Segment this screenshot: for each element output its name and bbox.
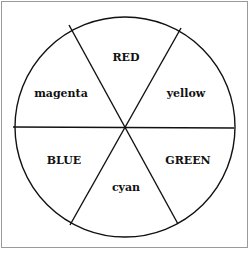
segment-label-cyan: cyan [112, 181, 140, 194]
divider-horizontal [13, 127, 234, 128]
segment-label-magenta: magenta [34, 87, 88, 100]
color-wheel [0, 0, 250, 254]
segment-label-yellow: yellow [167, 87, 206, 100]
segment-label-red: RED [112, 51, 139, 64]
segment-label-green: GREEN [165, 154, 210, 167]
segment-label-blue: BLUE [47, 154, 81, 167]
